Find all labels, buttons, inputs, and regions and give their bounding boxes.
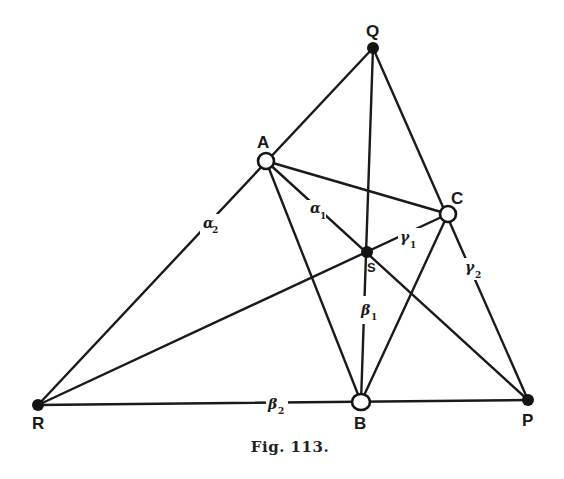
label-b: B [354,414,366,433]
point-c [440,206,456,222]
label-gamma1: γ [400,229,410,245]
projective-figure: Q A C S R B P α 2 α 1 γ 1 γ 2 β 1 β 2 Fi… [0,0,564,479]
line-a-b [266,161,361,402]
point-p [522,394,534,406]
label-alpha1-sub: 1 [320,211,326,221]
figure-lines [38,48,528,405]
point-q [367,42,379,54]
point-labels: Q A C S R B P [32,22,533,433]
point-b [352,394,370,410]
line-q-p [373,48,528,400]
label-beta2-sub: 2 [278,406,284,416]
label-s: S [367,260,376,275]
line-q-b [361,48,373,402]
label-gamma2: γ [465,259,475,275]
label-r: R [32,414,44,433]
line-r-c [38,214,448,405]
point-s [361,246,373,258]
point-a [258,153,274,169]
label-beta1: β [360,302,371,318]
point-r [32,399,44,411]
figure-caption: Fig. 113. [251,438,329,456]
label-beta2: β [267,396,278,412]
label-a: A [257,133,269,152]
label-gamma2-sub: 2 [475,270,481,280]
label-p: P [522,411,533,430]
label-knockouts [200,200,484,415]
label-c: C [451,189,463,208]
label-alpha2-sub: 2 [212,225,218,235]
label-beta1-sub: 1 [371,312,377,322]
figure-points [32,42,534,411]
label-gamma1-sub: 1 [410,240,416,250]
label-q: Q [366,22,379,41]
